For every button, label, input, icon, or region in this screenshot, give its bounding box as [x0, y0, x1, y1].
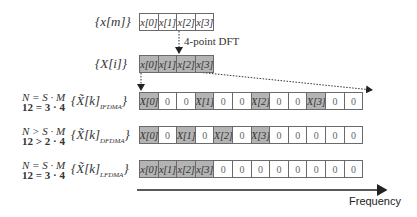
lfdma-cell: 0 [306, 160, 326, 178]
dfdma-equation: N > S · M 12 > 2 · 4 [22, 126, 65, 146]
set-close: } [123, 161, 128, 176]
lfdma-cell: 0 [288, 160, 308, 178]
lfdma-equation: N = S · M 12 = 3 · 4 [22, 160, 65, 180]
ifdma-subscript: IFDMA [100, 103, 122, 111]
dft-output-row: x[0] x[1] x[2] x[3] [139, 55, 214, 73]
dfdma-cell: X[0] [139, 126, 159, 144]
dft-label: 4-point DFT [184, 35, 239, 47]
dfdma-cell: X[1] [176, 126, 196, 144]
ifdma-eq-line2: 12 = 3 · 4 [22, 102, 65, 112]
lfdma-cell: 0 [269, 160, 289, 178]
set-open: {X̃[k] [71, 161, 100, 176]
input-cell: x[0] [139, 13, 159, 31]
ifdma-cell: 0 [325, 92, 345, 110]
dfdma-cell: 0 [344, 126, 364, 144]
dfdma-cell: 0 [288, 126, 308, 144]
lfdma-cell: x[0] [139, 160, 159, 178]
set-open: {X̃[k] [71, 93, 100, 108]
dft-cell: x[0] [139, 55, 159, 73]
ifdma-cell: 0 [176, 92, 196, 110]
dfdma-cell: 0 [306, 126, 326, 144]
ifdma-cell: 0 [288, 92, 308, 110]
ifdma-row: X[0] 0 0 X[1] 0 0 X[2] 0 0 X[3] 0 0 [139, 92, 363, 110]
lfdma-cell: 0 [232, 160, 252, 178]
lfdma-eq-line2: 12 = 3 · 4 [22, 170, 65, 180]
dft-cell: x[1] [158, 55, 178, 73]
ifdma-cell: X[1] [195, 92, 215, 110]
ifdma-cell: X[0] [139, 92, 159, 110]
dfdma-cell: 0 [269, 126, 289, 144]
ifdma-set-label: {X̃[k]IFDMA} [71, 93, 127, 111]
lfdma-cell: 0 [213, 160, 233, 178]
set-open: {X̃[k] [71, 127, 100, 142]
frequency-axis-label: Frequency [349, 195, 401, 207]
dft-output-label: {X[i]} [95, 56, 127, 72]
ifdma-cell: X[2] [251, 92, 271, 110]
lfdma-cell: x[1] [158, 160, 178, 178]
map-end-arrow [197, 72, 372, 90]
dfdma-cell: X[2] [213, 126, 233, 144]
dfdma-cell: 0 [195, 126, 215, 144]
dfdma-set-label: {X̃[k]DFDMA} [71, 127, 130, 145]
dfdma-eq-line2: 12 > 2 · 4 [22, 136, 65, 146]
set-close: } [122, 93, 127, 108]
dfdma-subscript: DFDMA [100, 137, 125, 145]
dfdma-cell: X[3] [251, 126, 271, 144]
dft-cell: x[3] [195, 55, 215, 73]
input-sequence-row: x[0] x[1] x[2] x[3] [139, 13, 214, 31]
ifdma-cell: 0 [213, 92, 233, 110]
dft-cell: x[2] [176, 55, 196, 73]
input-cell: x[3] [195, 13, 215, 31]
lfdma-cell: 0 [251, 160, 271, 178]
dfdma-cell: 0 [158, 126, 178, 144]
input-cell: x[2] [176, 13, 196, 31]
lfdma-subscript: LFDMA [100, 171, 123, 179]
ifdma-cell: 0 [158, 92, 178, 110]
dfdma-row: X[0] 0 X[1] 0 X[2] 0 X[3] 0 0 0 0 0 [139, 126, 363, 144]
ifdma-cell: X[3] [306, 92, 326, 110]
ifdma-equation: N = S · M 12 = 3 · 4 [22, 92, 65, 112]
ifdma-cell: 0 [232, 92, 252, 110]
lfdma-cell: 0 [344, 160, 364, 178]
lfdma-cell: x[2] [176, 160, 196, 178]
lfdma-set-label: {X̃[k]LFDMA} [71, 161, 129, 179]
ifdma-cell: 0 [344, 92, 364, 110]
lfdma-row: x[0] x[1] x[2] x[3] 0 0 0 0 0 0 0 0 [139, 160, 363, 178]
input-cell: x[1] [158, 13, 178, 31]
dfdma-cell: 0 [325, 126, 345, 144]
set-close: } [125, 127, 130, 142]
lfdma-cell: 0 [325, 160, 345, 178]
dfdma-cell: 0 [232, 126, 252, 144]
ifdma-cell: 0 [269, 92, 289, 110]
lfdma-cell: x[3] [195, 160, 215, 178]
input-sequence-label: {x[m]} [95, 14, 131, 30]
